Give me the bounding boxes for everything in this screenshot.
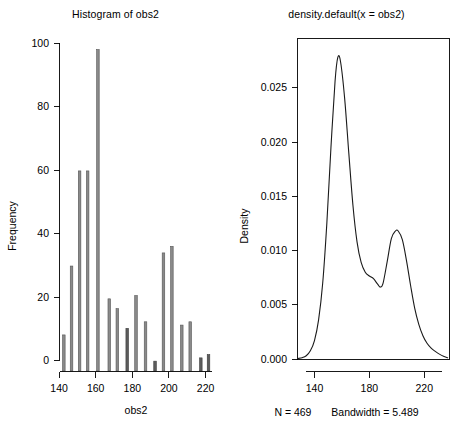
histogram-bar bbox=[108, 299, 111, 371]
density-y-tick-labels: 0.0000.0050.0100.0150.0200.025 bbox=[261, 81, 287, 364]
histogram-bar bbox=[171, 246, 174, 371]
density-x-ticks bbox=[314, 372, 424, 378]
density-curve bbox=[298, 56, 448, 359]
histogram-x-tick-label: 200 bbox=[160, 382, 178, 394]
density-y-tick-label: 0.015 bbox=[261, 190, 287, 202]
histogram-ytick-0: 0 bbox=[43, 354, 49, 366]
density-x-tick-label: 180 bbox=[361, 382, 379, 394]
density-y-tick-label: 0.020 bbox=[261, 136, 287, 148]
density-y-tick-label: 0.025 bbox=[261, 81, 287, 93]
histogram-bar bbox=[63, 335, 66, 371]
histogram-bar bbox=[162, 253, 165, 371]
histogram-bar bbox=[154, 361, 157, 371]
histogram-svg: 100 80 60 40 20 0 Frequency 140160180200… bbox=[0, 0, 231, 435]
histogram-y-ticks bbox=[54, 44, 60, 361]
density-x-tick-labels: 140180220 bbox=[306, 382, 433, 394]
histogram-bars bbox=[63, 50, 210, 371]
histogram-ytick-60: 60 bbox=[37, 164, 49, 176]
density-y-ticks bbox=[292, 88, 298, 359]
histogram-bar bbox=[70, 266, 73, 371]
density-y-tick-label: 0.005 bbox=[261, 298, 287, 310]
histogram-ytick-100: 100 bbox=[31, 37, 49, 49]
histogram-x-tick-label: 160 bbox=[87, 382, 105, 394]
histogram-x-ticks bbox=[59, 372, 206, 378]
histogram-bar bbox=[97, 50, 100, 371]
histogram-ytick-40: 40 bbox=[37, 227, 49, 239]
histogram-bar bbox=[181, 325, 184, 371]
density-footnote: N = 469 Bandwidth = 5.489 bbox=[231, 406, 462, 418]
density-svg: 0.0000.0050.0100.0150.0200.025 Density 1… bbox=[231, 0, 462, 435]
histogram-bar bbox=[135, 296, 138, 371]
histogram-ytick-80: 80 bbox=[37, 100, 49, 112]
density-x-tick-label: 140 bbox=[306, 382, 324, 394]
histogram-x-axis-label: obs2 bbox=[125, 404, 148, 416]
r-graphics-figure: Histogram of obs2 100 80 60 40 20 0 Freq… bbox=[0, 0, 462, 435]
density-panel: density.default(x = obs2) 0.0000.0050.01… bbox=[231, 0, 462, 435]
density-footnote-n: N = 469 bbox=[274, 406, 311, 418]
histogram-bar bbox=[189, 322, 192, 371]
histogram-x-tick-labels: 140160180200220 bbox=[50, 382, 214, 394]
histogram-bar bbox=[86, 171, 89, 371]
histogram-x-tick-label: 180 bbox=[124, 382, 142, 394]
histogram-bar bbox=[207, 355, 210, 371]
histogram-y-axis-label: Frequency bbox=[6, 200, 18, 250]
histogram-x-tick-label: 140 bbox=[50, 382, 68, 394]
histogram-bar bbox=[144, 322, 147, 371]
density-y-tick-label: 0.010 bbox=[261, 244, 287, 256]
histogram-bar bbox=[126, 328, 129, 371]
histogram-bar bbox=[200, 358, 203, 371]
histogram-ytick-20: 20 bbox=[37, 291, 49, 303]
histogram-bar bbox=[116, 309, 119, 371]
density-y-tick-label: 0.000 bbox=[261, 353, 287, 365]
density-y-axis-label: Density bbox=[238, 208, 250, 244]
histogram-bar bbox=[78, 171, 81, 371]
histogram-panel: Histogram of obs2 100 80 60 40 20 0 Freq… bbox=[0, 0, 231, 435]
density-footnote-bandwidth: Bandwidth = 5.489 bbox=[331, 406, 418, 418]
density-x-tick-label: 220 bbox=[416, 382, 434, 394]
histogram-x-tick-label: 220 bbox=[197, 382, 215, 394]
